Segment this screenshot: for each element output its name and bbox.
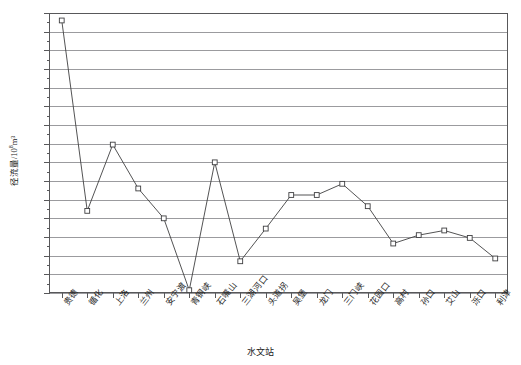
data-point-marker — [391, 241, 396, 246]
data-point-marker — [212, 160, 217, 165]
data-point-marker — [493, 256, 498, 261]
data-point-marker — [289, 193, 294, 198]
data-point-marker — [314, 193, 319, 198]
data-point-marker — [340, 181, 345, 186]
data-point-marker — [85, 208, 90, 213]
data-point-marker — [365, 204, 370, 209]
series-line — [62, 20, 496, 290]
data-series-layer — [0, 0, 521, 365]
data-point-marker — [238, 259, 243, 264]
data-point-marker — [110, 142, 115, 147]
data-point-marker — [263, 226, 268, 231]
data-point-marker — [442, 228, 447, 233]
data-point-marker — [136, 186, 141, 191]
runoff-line-chart: 径流量/108m³ 水文站 22020018016014012010080604… — [0, 0, 521, 365]
data-point-marker — [59, 18, 64, 23]
data-point-marker — [187, 288, 192, 293]
data-point-marker — [161, 216, 166, 221]
data-point-marker — [467, 236, 472, 241]
data-point-marker — [416, 233, 421, 238]
